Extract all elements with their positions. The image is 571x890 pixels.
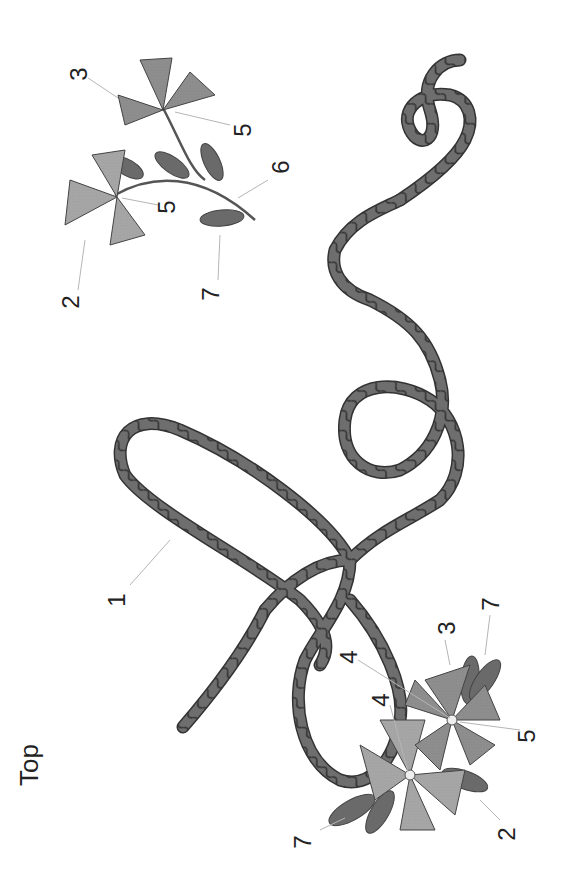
callout-5: 5 (231, 123, 255, 136)
callout-7: 7 (479, 597, 503, 610)
flower-cluster-bottom (324, 655, 506, 837)
callout-2: 2 (59, 295, 83, 308)
callout-7: 7 (291, 835, 315, 848)
callout-5: 5 (515, 729, 539, 742)
callout-5: 5 (155, 200, 179, 213)
callout-4: 4 (369, 693, 393, 706)
callout-3: 3 (67, 67, 91, 80)
callout-4: 4 (337, 650, 361, 663)
callout-1: 1 (105, 593, 129, 606)
orientation-label: Top (14, 744, 45, 786)
callout-3: 3 (435, 621, 459, 634)
embroidery-diagram: Top 1 2 3 5 5 6 7 4 4 3 7 5 2 7 (0, 0, 571, 890)
callout-7: 7 (199, 287, 223, 300)
flower-spray-top (65, 58, 255, 245)
callout-2: 2 (495, 827, 519, 840)
callout-6: 6 (269, 160, 293, 173)
diagram-artwork (0, 0, 571, 890)
